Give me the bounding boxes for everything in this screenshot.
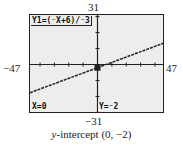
calculator-screen: Y1=(⁻X+6)/⁻3 X=0 Y=⁻2 (29, 14, 164, 113)
xmin-label: −47 (3, 62, 20, 74)
ymax-label: 31 (88, 1, 99, 13)
caption-text: -intercept (0, −2) (56, 128, 131, 140)
caption: y-intercept (0, −2) (0, 128, 183, 140)
xmax-label: 47 (166, 62, 177, 74)
ymin-label: −31 (85, 115, 102, 127)
graph-plot (30, 15, 164, 113)
x-readout: X=0 (31, 102, 47, 111)
equation-label: Y1=(⁻X+6)/⁻3 (31, 16, 92, 26)
y-readout: Y=⁻2 (97, 102, 119, 111)
